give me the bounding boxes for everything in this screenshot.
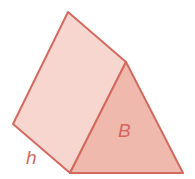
triangular-prism-diagram: B h [0, 0, 195, 179]
height-label: h [26, 147, 37, 168]
base-label: B [118, 120, 131, 141]
